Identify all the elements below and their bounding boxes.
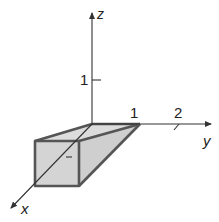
- y-tick-label-1: 1: [130, 104, 138, 121]
- y-axis-label: y: [202, 132, 212, 149]
- y-tick-2: [174, 124, 179, 130]
- diagram-canvas: z 1 1 2 y x: [0, 0, 219, 222]
- x-axis-label: x: [20, 200, 29, 217]
- z-tick-label-1: 1: [80, 71, 88, 88]
- y-tick-label-2: 2: [174, 104, 182, 121]
- solid-wedge: [35, 124, 140, 186]
- z-axis-label: z: [96, 6, 104, 22]
- solid-front-face: [35, 141, 79, 186]
